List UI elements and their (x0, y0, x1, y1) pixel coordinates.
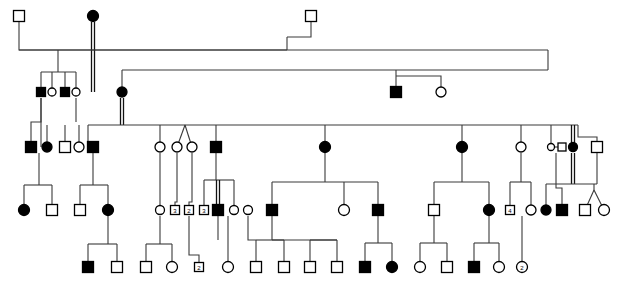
individual-III-12[interactable] (516, 142, 526, 152)
unaffected-female-icon[interactable] (172, 142, 182, 152)
unaffected-male-icon[interactable] (332, 262, 343, 273)
individual-IV-18[interactable] (526, 205, 536, 215)
unaffected-female-icon[interactable] (526, 205, 536, 215)
affected-female-icon[interactable] (484, 205, 495, 216)
unaffected-female-icon[interactable] (187, 142, 197, 152)
unaffected-female-icon[interactable] (415, 262, 426, 273)
individual-IV-19[interactable] (541, 205, 551, 215)
individual-V-7[interactable] (251, 262, 262, 273)
unaffected-male-icon[interactable] (47, 205, 58, 216)
individual-IV-20[interactable] (557, 205, 568, 216)
affected-male-icon[interactable] (391, 87, 402, 98)
unaffected-male-icon[interactable] (306, 11, 317, 22)
individual-III-9[interactable] (211, 142, 222, 153)
unaffected-female-icon[interactable] (167, 262, 178, 273)
individual-I-3[interactable] (306, 11, 317, 22)
unaffected-male-icon[interactable] (580, 205, 591, 216)
affected-female-icon[interactable] (42, 142, 52, 152)
unaffected-female-icon[interactable] (599, 205, 610, 216)
individual-V-9[interactable] (305, 262, 316, 273)
unaffected-female-icon[interactable] (436, 87, 446, 97)
individual-IV-22[interactable] (599, 205, 610, 216)
unaffected-female-icon[interactable] (74, 142, 84, 152)
individual-V-6[interactable] (223, 262, 234, 273)
affected-female-icon[interactable] (387, 262, 398, 273)
affected-male-icon[interactable] (37, 88, 46, 97)
individual-II-1[interactable] (37, 88, 46, 97)
individual-III-10[interactable] (320, 142, 331, 153)
affected-female-icon[interactable] (541, 205, 551, 215)
individual-III-8[interactable] (187, 142, 197, 152)
affected-male-icon[interactable] (83, 262, 94, 273)
affected-female-icon[interactable] (19, 205, 30, 216)
individual-III-1[interactable] (26, 142, 37, 153)
individual-III-16[interactable] (592, 142, 603, 153)
affected-male-icon[interactable] (211, 142, 222, 153)
individual-IV-8[interactable]: 3 (200, 206, 209, 215)
individual-V-1[interactable] (83, 262, 94, 273)
unaffected-male-icon[interactable] (60, 142, 71, 153)
affected-female-icon[interactable] (320, 142, 331, 153)
affected-female-icon[interactable] (103, 205, 114, 216)
individual-IV-6[interactable]: 3 (171, 206, 180, 215)
individual-IV-1[interactable] (19, 205, 30, 216)
individual-III-13[interactable] (548, 144, 555, 151)
individual-IV-13[interactable] (339, 205, 350, 216)
unaffected-female-icon[interactable] (156, 206, 165, 215)
unaffected-male-icon[interactable] (592, 142, 603, 153)
unaffected-female-icon[interactable] (230, 206, 239, 215)
affected-male-icon[interactable] (557, 205, 568, 216)
affected-female-icon[interactable] (457, 142, 468, 153)
unaffected-male-icon[interactable] (558, 143, 566, 151)
individual-IV-16[interactable] (484, 205, 495, 216)
individual-IV-12[interactable] (267, 205, 278, 216)
individual-IV-21[interactable] (580, 205, 591, 216)
unaffected-male-icon[interactable] (429, 205, 440, 216)
individual-IV-14[interactable] (373, 205, 384, 216)
individual-V-12[interactable] (387, 262, 398, 273)
individual-IV-5[interactable] (156, 206, 165, 215)
individual-V-8[interactable] (279, 262, 290, 273)
individual-V-4[interactable] (167, 262, 178, 273)
individual-II-7[interactable] (436, 87, 446, 97)
individual-IV-2[interactable] (47, 205, 58, 216)
affected-male-icon[interactable] (88, 142, 99, 153)
individual-I-2[interactable] (88, 11, 99, 22)
individual-V-14[interactable] (442, 262, 453, 273)
affected-male-icon[interactable] (61, 88, 70, 97)
unaffected-male-icon[interactable] (251, 262, 262, 273)
affected-female-icon[interactable] (569, 143, 578, 152)
individual-II-5[interactable] (117, 87, 127, 97)
individual-V-15[interactable] (469, 262, 480, 273)
unaffected-female-icon[interactable] (155, 142, 165, 152)
individual-III-7[interactable] (172, 142, 182, 152)
individual-V-13[interactable] (415, 262, 426, 273)
unaffected-female-icon[interactable] (72, 88, 80, 96)
individual-V-3[interactable] (141, 262, 152, 273)
individual-I-1[interactable] (14, 11, 25, 22)
individual-IV-15[interactable] (429, 205, 440, 216)
affected-male-icon[interactable] (373, 205, 384, 216)
affected-female-icon[interactable] (117, 87, 127, 97)
individual-II-4[interactable] (72, 88, 80, 96)
individual-IV-17[interactable]: 4 (506, 206, 515, 215)
affected-male-icon[interactable] (213, 205, 224, 216)
individual-III-5[interactable] (88, 142, 99, 153)
individual-III-14[interactable] (558, 143, 566, 151)
individual-II-3[interactable] (61, 88, 70, 97)
individual-II-2[interactable] (48, 88, 56, 96)
individual-II-6[interactable] (391, 87, 402, 98)
individual-IV-11[interactable] (244, 206, 253, 215)
individual-IV-7[interactable]: 2 (185, 206, 194, 215)
unaffected-male-icon[interactable] (442, 262, 453, 273)
individual-III-3[interactable] (60, 142, 71, 153)
individual-III-15[interactable] (569, 143, 578, 152)
affected-female-icon[interactable] (88, 11, 99, 22)
unaffected-male-icon[interactable] (75, 205, 86, 216)
individual-V-5[interactable]: 2 (195, 263, 204, 272)
affected-male-icon[interactable] (26, 142, 37, 153)
individual-V-10[interactable] (332, 262, 343, 273)
individual-IV-4[interactable] (103, 205, 114, 216)
unaffected-female-icon[interactable] (494, 262, 505, 273)
unaffected-male-icon[interactable] (141, 262, 152, 273)
